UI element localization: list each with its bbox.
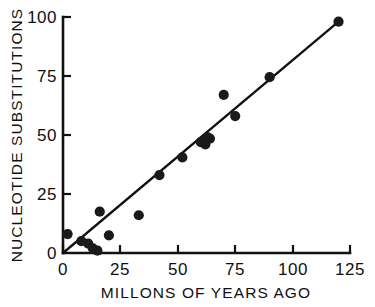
x-tick-label-125: 125 [335,260,365,279]
y-tick-label-0: 0 [47,244,57,263]
data-point [134,210,144,220]
data-point [154,170,164,180]
data-point [62,229,72,239]
x-tick-label-50: 50 [168,260,188,279]
x-tick-label-100: 100 [278,260,308,279]
data-point [265,72,275,82]
x-tick-label-25: 25 [110,260,130,279]
x-tick-label-0: 0 [58,260,68,279]
data-point [333,17,343,27]
x-axis-tick-labels: 0 25 50 75 100 125 [58,260,365,279]
y-axis-tick-labels: 100 75 50 25 0 [27,8,57,263]
data-point [92,246,102,256]
x-tick-label-75: 75 [225,260,245,279]
data-point [205,133,215,143]
scatter-plot-figure: 100 75 50 25 0 0 25 50 75 100 125 MILLON… [0,0,375,307]
y-axis-title: NUCLEOTIDE SUBSTITUTIONS [8,8,25,263]
data-point [95,207,105,217]
x-axis-title: MILLONS OF YEARS AGO [101,284,311,301]
data-point [104,230,114,240]
y-tick-label-100: 100 [27,8,57,27]
y-tick-label-75: 75 [37,67,57,86]
data-point [230,111,240,121]
data-point [219,90,229,100]
chart-canvas: 100 75 50 25 0 0 25 50 75 100 125 MILLON… [0,0,375,307]
data-point [177,152,187,162]
y-tick-label-25: 25 [37,185,57,204]
y-tick-label-50: 50 [37,126,57,145]
